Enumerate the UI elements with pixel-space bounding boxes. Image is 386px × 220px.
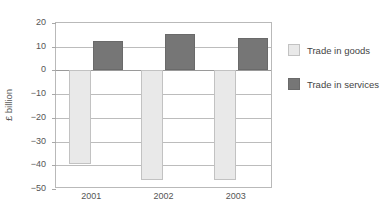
bar-group-2003 [201,23,273,187]
bar-group-2001 [56,23,128,187]
x-tick-label-2002: 2002 [153,191,173,201]
y-tick-label: −10 [31,88,46,98]
y-tick-label: −40 [31,159,46,169]
y-tick-label: 20 [36,17,46,27]
y-axis-tick-labels: 20100−10−20−30−40−50 [18,22,50,188]
x-tick-label-2001: 2001 [81,191,101,201]
bar-group-2002 [128,23,200,187]
bar-goods-2002[interactable] [141,70,163,179]
legend-label: Trade in goods [307,45,370,56]
x-tick-label-2003: 2003 [226,191,246,201]
y-tick-label: −30 [31,136,46,146]
legend-item-services[interactable]: Trade in services [288,78,384,90]
bar-services-2001[interactable] [93,41,123,71]
y-tick-label: 0 [41,64,46,74]
bar-chart-figure: £ billion 20100−10−20−30−40−50 200120022… [0,0,386,220]
goods-swatch-icon [288,44,300,56]
bar-goods-2003[interactable] [214,70,236,179]
chart-legend: Trade in goodsTrade in services [288,44,384,112]
y-tick-mark [52,189,56,190]
y-tick-label: −50 [31,183,46,193]
bar-services-2002[interactable] [165,34,195,71]
y-tick-label: −20 [31,112,46,122]
legend-item-goods[interactable]: Trade in goods [288,44,384,56]
x-axis-tick-labels: 200120022003 [55,191,272,207]
y-axis-title: £ billion [2,22,16,188]
legend-label: Trade in services [307,79,379,90]
bar-services-2003[interactable] [238,38,268,70]
y-tick-label: 10 [36,41,46,51]
plot-area [55,22,272,188]
bar-goods-2001[interactable] [69,70,91,164]
services-swatch-icon [288,78,300,90]
